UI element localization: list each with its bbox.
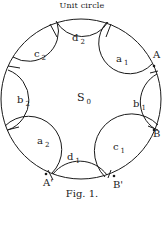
label-d1: d1 [67, 152, 80, 165]
point-A-dot [153, 65, 156, 68]
label-c1: c1 [113, 142, 125, 155]
point-A-prime-dot [45, 173, 48, 176]
label-point-A: A [153, 50, 160, 60]
label-a1: a1 [116, 54, 128, 67]
label-b1: b1 [133, 99, 146, 112]
arc-a2 [5, 116, 62, 173]
label-d2: d2 [72, 33, 85, 46]
label-a2: a2 [37, 136, 49, 149]
label-center-S0: S0 [77, 92, 91, 106]
label-c2: c2 [34, 49, 46, 62]
label-point-B: B [153, 129, 160, 139]
label-point-A-prime: A' [43, 178, 53, 188]
label-b2: b2 [17, 95, 30, 108]
figure-caption: Fig. 1. [0, 188, 164, 199]
point-B-prime-dot [113, 175, 116, 178]
